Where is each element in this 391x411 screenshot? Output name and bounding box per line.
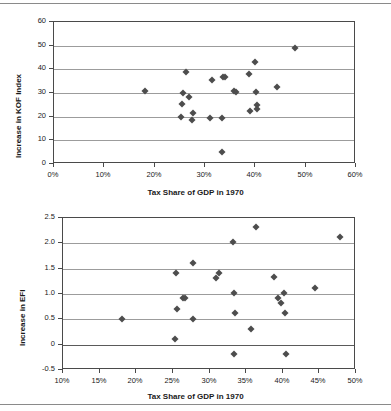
y-axis-tick bbox=[58, 268, 62, 269]
data-point-marker bbox=[185, 93, 192, 100]
kof-index-scatter-figure: Increase in KOF Index Tax Share of GDP i… bbox=[0, 8, 391, 204]
efi-x-axis-title: Tax Share of GDP in 1970 bbox=[0, 392, 391, 401]
x-axis-tick-label: 25% bbox=[152, 376, 192, 385]
y-axis-tick bbox=[58, 217, 62, 218]
data-point-marker bbox=[336, 233, 343, 240]
y-axis-tick bbox=[58, 242, 62, 243]
y-axis-tick-label: 2.5 bbox=[22, 212, 55, 221]
gridline-y bbox=[63, 345, 354, 346]
data-point-marker bbox=[208, 77, 215, 84]
x-axis-tick-label: 30% bbox=[189, 376, 229, 385]
data-point-marker bbox=[119, 315, 126, 322]
x-axis-tick-label: 0% bbox=[33, 170, 73, 179]
data-point-marker bbox=[282, 350, 289, 357]
x-axis-tick bbox=[305, 163, 306, 167]
y-axis-tick-label: 20 bbox=[13, 111, 46, 120]
data-point-marker bbox=[190, 315, 197, 322]
page-rule-bottom bbox=[0, 404, 391, 405]
y-axis-tick-label: 2.0 bbox=[22, 237, 55, 246]
data-point-marker bbox=[172, 336, 179, 343]
y-axis-tick bbox=[58, 344, 62, 345]
x-axis-tick bbox=[53, 163, 54, 167]
data-point-marker bbox=[206, 114, 213, 121]
y-axis-tick bbox=[49, 92, 53, 93]
data-point-marker bbox=[229, 239, 236, 246]
y-axis-tick-label: 0 bbox=[13, 158, 46, 167]
y-axis-tick bbox=[49, 45, 53, 46]
y-axis-tick bbox=[58, 318, 62, 319]
x-axis-tick bbox=[245, 369, 246, 373]
efi-plot-area bbox=[62, 217, 355, 369]
kof-plot-area bbox=[53, 21, 355, 163]
data-point-marker bbox=[178, 113, 185, 120]
x-axis-tick bbox=[103, 163, 104, 167]
x-axis-tick-label: 35% bbox=[225, 376, 265, 385]
y-axis-tick-label: 30 bbox=[13, 87, 46, 96]
data-point-marker bbox=[270, 274, 277, 281]
x-axis-tick bbox=[99, 369, 100, 373]
x-axis-tick-label: 30% bbox=[184, 170, 224, 179]
data-point-marker bbox=[219, 114, 226, 121]
x-axis-tick bbox=[355, 369, 356, 373]
data-point-marker bbox=[273, 84, 280, 91]
gridline-y bbox=[54, 69, 354, 70]
data-point-marker bbox=[311, 284, 318, 291]
x-axis-tick-label: 45% bbox=[298, 376, 338, 385]
gridline-y bbox=[54, 93, 354, 94]
data-point-marker bbox=[231, 289, 238, 296]
x-axis-tick-label: 40% bbox=[262, 376, 302, 385]
gridline-y bbox=[63, 294, 354, 295]
gridline-y bbox=[54, 117, 354, 118]
gridline-y bbox=[54, 46, 354, 47]
data-point-marker bbox=[173, 305, 180, 312]
x-axis-tick-label: 10% bbox=[42, 376, 82, 385]
x-axis-tick-label: 60% bbox=[335, 170, 375, 179]
y-axis-tick-label: -0.5 bbox=[22, 364, 55, 373]
data-point-marker bbox=[252, 58, 259, 65]
x-axis-tick bbox=[172, 369, 173, 373]
x-axis-tick bbox=[254, 163, 255, 167]
data-point-marker bbox=[232, 310, 239, 317]
x-axis-tick-label: 20% bbox=[115, 376, 155, 385]
page-rule-top bbox=[0, 3, 391, 4]
data-point-marker bbox=[218, 149, 225, 156]
x-axis-tick-label: 50% bbox=[335, 376, 375, 385]
y-axis-tick bbox=[58, 293, 62, 294]
data-point-marker bbox=[281, 289, 288, 296]
gridline-y bbox=[54, 140, 354, 141]
y-axis-tick bbox=[49, 139, 53, 140]
data-point-marker bbox=[189, 110, 196, 117]
data-point-marker bbox=[247, 325, 254, 332]
y-axis-tick-label: 1.0 bbox=[22, 288, 55, 297]
x-axis-tick bbox=[209, 369, 210, 373]
x-axis-tick-label: 15% bbox=[79, 376, 119, 385]
x-axis-tick bbox=[318, 369, 319, 373]
y-axis-tick-label: 10 bbox=[13, 134, 46, 143]
data-point-marker bbox=[281, 310, 288, 317]
y-axis-tick-label: 1.5 bbox=[22, 263, 55, 272]
data-point-marker bbox=[254, 106, 261, 113]
x-axis-tick bbox=[355, 163, 356, 167]
data-point-marker bbox=[253, 88, 260, 95]
x-axis-tick bbox=[62, 369, 63, 373]
data-point-marker bbox=[230, 350, 237, 357]
x-axis-tick-label: 20% bbox=[134, 170, 174, 179]
x-axis-tick-label: 10% bbox=[83, 170, 123, 179]
y-axis-tick-label: 40 bbox=[13, 63, 46, 72]
y-axis-tick bbox=[49, 116, 53, 117]
data-point-marker bbox=[278, 300, 285, 307]
data-point-marker bbox=[178, 100, 185, 107]
kof-x-axis-title: Tax Share of GDP in 1970 bbox=[0, 188, 391, 197]
data-point-marker bbox=[245, 70, 252, 77]
y-axis-tick-label: 0 bbox=[22, 339, 55, 348]
y-axis-tick-label: 0.5 bbox=[22, 313, 55, 322]
efi-scatter-figure: Increase in EFI Tax Share of GDP in 1970… bbox=[0, 206, 391, 402]
y-axis-tick-label: 60 bbox=[13, 16, 46, 25]
x-axis-tick bbox=[204, 163, 205, 167]
data-point-marker bbox=[172, 269, 179, 276]
y-axis-tick bbox=[49, 21, 53, 22]
x-axis-tick-label: 40% bbox=[234, 170, 274, 179]
x-axis-tick bbox=[282, 369, 283, 373]
x-axis-tick bbox=[135, 369, 136, 373]
data-point-marker bbox=[252, 223, 259, 230]
